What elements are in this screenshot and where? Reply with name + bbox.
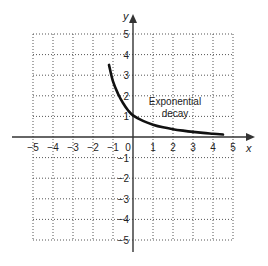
x-tick-label: 5	[230, 142, 236, 153]
x-tick-label: 0	[125, 142, 131, 153]
x-tick-label: 3	[190, 142, 196, 153]
x-tick-label: 4	[210, 142, 216, 153]
x-tick-label: −4	[47, 142, 59, 153]
y-tick-label: −1	[118, 153, 130, 164]
y-tick-label: −4	[118, 214, 130, 225]
y-tick-label: 2	[123, 91, 129, 102]
x-tick-label: 1	[150, 142, 156, 153]
y-tick-label: 3	[123, 70, 129, 81]
x-tick-label: −1	[107, 142, 119, 153]
axes: x y	[12, 10, 255, 252]
y-axis-label: y	[122, 10, 130, 22]
annotation-line1: Exponential	[149, 96, 201, 107]
chart: x y −5−4−3−2−101234554321−1−2−3−4−5 Expo…	[0, 0, 268, 266]
y-tick-label: 4	[123, 50, 129, 61]
y-tick-label: 1	[123, 111, 129, 122]
x-axis-label: x	[245, 142, 252, 154]
y-tick-label: −3	[118, 194, 130, 205]
x-tick-label: −3	[67, 142, 79, 153]
x-tick-label: −5	[27, 142, 39, 153]
x-axis-arrow-icon	[246, 133, 255, 141]
x-tick-label: −2	[87, 142, 99, 153]
y-tick-label: −5	[118, 235, 130, 246]
y-tick-label: −2	[118, 173, 130, 184]
x-tick-label: 2	[170, 142, 176, 153]
annotation-line2: decay	[162, 108, 189, 119]
y-axis-arrow-icon	[129, 14, 137, 23]
y-tick-label: 5	[123, 29, 129, 40]
